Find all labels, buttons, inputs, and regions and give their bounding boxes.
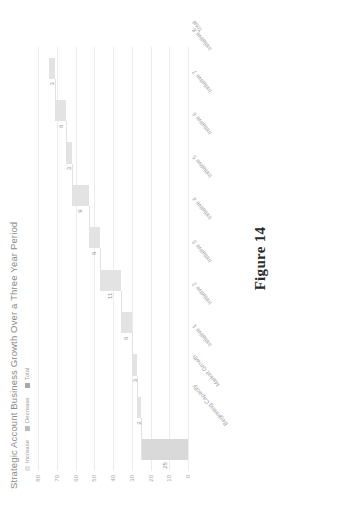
bar-value-label: 3 <box>66 167 72 170</box>
x-axis-category-label: Initiative 2 <box>191 281 213 306</box>
legend-label-decrease: Decrease <box>24 397 30 423</box>
bar-initiative-2 <box>121 312 132 333</box>
bar-initiative-3 <box>100 270 121 291</box>
bar-value-label: 6 <box>123 337 129 340</box>
connector-line <box>100 248 101 290</box>
bar-value-label: 6 <box>91 252 97 255</box>
y-axis-tick-label: 20 <box>148 475 154 482</box>
gridline <box>169 47 170 471</box>
connector-line <box>121 291 122 333</box>
waterfall-chart: Strategic Account Business Growth Over a… <box>0 0 240 517</box>
legend-swatch-total <box>25 383 30 388</box>
chart-legend: Increase Decrease Total <box>24 368 30 471</box>
bar-value-label: 11 <box>107 293 113 299</box>
y-axis-tick-label: 50 <box>91 475 97 482</box>
connector-line <box>66 121 67 163</box>
bar-beginning-capacity <box>141 439 188 460</box>
gridline <box>151 47 152 471</box>
y-axis-tick-label: 70 <box>54 475 60 482</box>
gridline <box>132 47 133 471</box>
gridline <box>113 47 114 471</box>
connector-line <box>132 333 133 375</box>
bar-value-label: 3 <box>132 379 138 382</box>
y-axis-tick-label: 40 <box>110 475 116 482</box>
y-axis-tick-label: 30 <box>129 475 135 482</box>
x-axis-category-label: Initiative 3 <box>191 239 213 264</box>
gridline <box>76 47 77 471</box>
y-axis-tick-label: 10 <box>166 475 172 482</box>
x-axis-category-label: Initiative 4 <box>191 196 213 221</box>
figure-page: Strategic Account Business Growth Over a… <box>0 0 347 517</box>
bar-value-label: 9 <box>77 209 83 212</box>
legend-label-increase: Increase <box>24 440 30 463</box>
legend-label-total: Total <box>24 368 30 381</box>
bar-initiative-8 <box>49 58 55 79</box>
x-axis-category-label: Initiative 6 <box>191 112 213 137</box>
x-axis-category-label: Initiative 1 <box>191 324 213 349</box>
gridline <box>188 47 189 471</box>
gridline <box>38 47 39 471</box>
legend-item-decrease: Decrease <box>24 397 30 431</box>
connector-line <box>89 206 90 248</box>
bar-value-label: 25 <box>162 462 168 469</box>
legend-swatch-increase <box>25 466 30 471</box>
x-axis-category-label: Initiative 5 <box>191 154 213 179</box>
y-axis-tick-label: 60 <box>73 475 79 482</box>
legend-item-increase: Increase <box>24 440 30 471</box>
gridline <box>94 47 95 471</box>
bar-value-label: 2 <box>136 421 142 424</box>
x-axis-category-label: Beginning Capacity <box>191 384 229 427</box>
bar-initiative-4 <box>89 227 100 248</box>
bar-value-label: 3 <box>49 82 55 85</box>
x-axis-category-label: Initiative 7 <box>191 69 213 94</box>
chart-title: Strategic Account Business Growth Over a… <box>8 222 19 489</box>
rotated-figure-container: Strategic Account Business Growth Over a… <box>0 0 347 517</box>
y-axis-tick-label: 80 <box>35 475 41 482</box>
plot-area: 0102030405060708025Beginning Capacity2Ma… <box>38 47 188 471</box>
legend-swatch-decrease <box>25 426 30 431</box>
bar-initiative-7 <box>55 100 66 121</box>
bar-value-label: 6 <box>58 125 64 128</box>
figure-caption: Figure 14 <box>252 0 269 517</box>
bar-initiative-5 <box>72 185 89 206</box>
legend-item-total: Total <box>24 368 30 389</box>
y-axis-tick-label: 0 <box>185 475 191 478</box>
